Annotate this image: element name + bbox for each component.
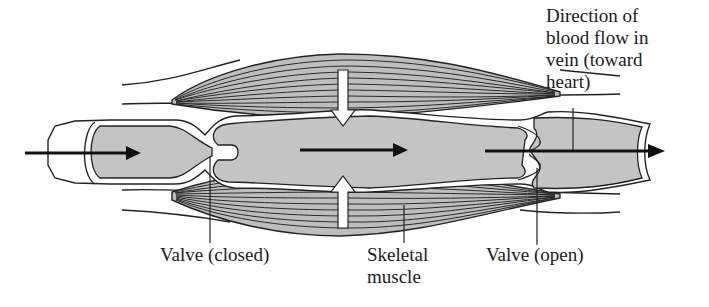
valve-closed-label-text: Valve (closed): [160, 244, 269, 266]
valve-open-label: Valve (open): [486, 244, 584, 266]
direction-label-line-4: heart): [546, 71, 648, 93]
direction-label-line-2: blood flow in: [546, 27, 648, 49]
direction-of-blood-flow-label: Direction of blood flow in vein (toward …: [546, 5, 648, 93]
direction-label-line-1: Direction of: [546, 5, 648, 27]
direction-label-line-3: vein (toward: [546, 49, 648, 71]
skeletal-muscle-label: Skeletal muscle: [367, 244, 428, 288]
valve-open-label-text: Valve (open): [486, 244, 584, 266]
skeletal-muscle-label-line-2: muscle: [367, 266, 428, 288]
skeletal-muscle-label-line-1: Skeletal: [367, 244, 428, 266]
valve-closed-label: Valve (closed): [160, 244, 269, 266]
